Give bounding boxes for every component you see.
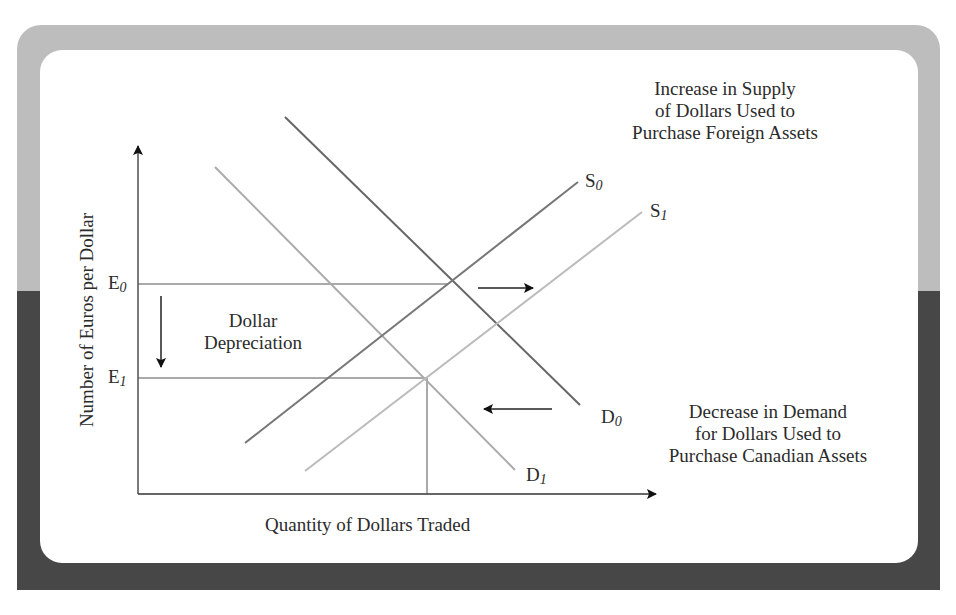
label-s0-sub: 0 [596, 178, 603, 193]
depreciation-line-2: Depreciation [183, 332, 323, 354]
demand-annotation-line-2: for Dollars Used to [638, 423, 898, 445]
d0-curve [285, 117, 580, 405]
label-d1-main: D [526, 464, 540, 485]
label-s1-sub: 1 [661, 208, 668, 223]
demand-annotation-line-3: Purchase Canadian Assets [638, 445, 898, 467]
tick-e1-main: E [108, 366, 120, 387]
supply-annotation-line-1: Increase in Supply [605, 78, 845, 100]
demand-shift-annotation: Decrease in Demand for Dollars Used to P… [638, 401, 898, 467]
label-d1: D1 [526, 464, 547, 488]
label-d0-main: D [601, 406, 615, 427]
label-s1: S1 [650, 200, 668, 224]
label-s0: S0 [585, 170, 603, 194]
label-s1-main: S [650, 200, 661, 221]
tick-e0-main: E [108, 272, 120, 293]
depreciation-line-1: Dollar [183, 310, 323, 332]
label-s0-main: S [585, 170, 596, 191]
tick-e1-sub: 1 [120, 374, 127, 389]
tick-e0-sub: 0 [120, 280, 127, 295]
supply-shift-annotation: Increase in Supply of Dollars Used to Pu… [605, 78, 845, 144]
label-d0: D0 [601, 406, 622, 430]
x-axis-label: Quantity of Dollars Traded [265, 514, 470, 536]
tick-e1: E1 [108, 366, 127, 390]
demand-annotation-line-1: Decrease in Demand [638, 401, 898, 423]
depreciation-annotation: Dollar Depreciation [183, 310, 323, 354]
tick-e0: E0 [108, 272, 127, 296]
label-d1-sub: 1 [540, 472, 547, 487]
supply-annotation-line-2: of Dollars Used to [605, 100, 845, 122]
label-d0-sub: 0 [615, 414, 622, 429]
y-axis-label: Number of Euros per Dollar [76, 213, 98, 427]
supply-annotation-line-3: Purchase Foreign Assets [605, 122, 845, 144]
s1-curve [305, 212, 642, 471]
